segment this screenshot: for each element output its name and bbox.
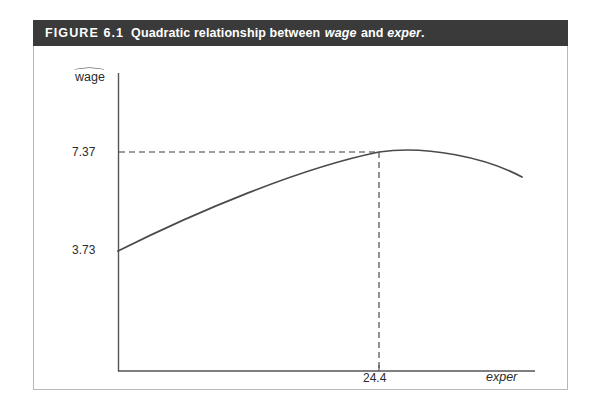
- y-tick-label-3-73: 3.73: [72, 243, 95, 257]
- figure-container: FIGURE 6.1Quadratic relationship between…: [0, 0, 595, 408]
- x-axis-label: exper: [486, 370, 517, 384]
- x-tick-label-24-4: 24.4: [363, 371, 386, 385]
- y-axis-label-wage: wage: [74, 70, 106, 84]
- y-tick-label-7-37: 7.37: [72, 145, 95, 159]
- quadratic-curve: [118, 150, 522, 251]
- y-axis-label-text: wage: [75, 70, 105, 84]
- plot-area: [0, 0, 595, 408]
- y-axis-label: wage: [74, 70, 106, 84]
